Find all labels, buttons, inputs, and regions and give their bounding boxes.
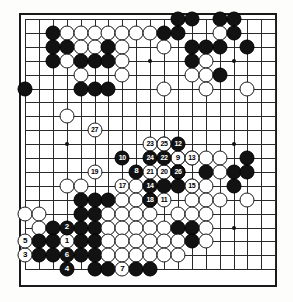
white-stone xyxy=(115,192,130,207)
move-number: 24 xyxy=(147,154,154,161)
black-stone xyxy=(45,25,60,40)
white-stone xyxy=(198,81,213,96)
black-stone xyxy=(73,234,88,249)
white-stone xyxy=(240,81,255,96)
move-number: 20 xyxy=(161,168,168,175)
white-stone xyxy=(115,220,130,235)
white-stone xyxy=(59,53,74,68)
black-stone xyxy=(184,220,199,235)
move-stone-7: 7 xyxy=(115,262,130,277)
move-stone-17: 17 xyxy=(115,178,130,193)
white-stone xyxy=(143,25,158,40)
white-stone xyxy=(31,220,46,235)
move-stone-15: 15 xyxy=(184,178,199,193)
move-stone-2: 2 xyxy=(59,220,74,235)
white-stone xyxy=(101,248,116,263)
grid-line-horizontal xyxy=(25,75,275,76)
white-stone xyxy=(157,220,172,235)
white-stone xyxy=(115,234,130,249)
white-stone xyxy=(184,206,199,221)
white-stone xyxy=(87,39,102,54)
grid-line-horizontal xyxy=(25,89,275,90)
black-stone xyxy=(240,164,255,179)
white-stone xyxy=(212,164,227,179)
move-stone-10: 10 xyxy=(115,151,130,166)
move-number: 14 xyxy=(147,182,154,189)
black-stone xyxy=(87,248,102,263)
white-stone xyxy=(73,178,88,193)
white-stone xyxy=(31,206,46,221)
black-stone xyxy=(73,220,88,235)
black-stone xyxy=(87,192,102,207)
grid-line-horizontal xyxy=(25,130,275,131)
white-stone xyxy=(170,234,185,249)
black-stone xyxy=(226,25,241,40)
move-stone-18: 18 xyxy=(143,192,158,207)
white-stone xyxy=(129,192,144,207)
black-stone xyxy=(101,81,116,96)
move-number: 15 xyxy=(188,182,195,189)
move-number: 22 xyxy=(161,154,168,161)
white-stone xyxy=(115,53,130,68)
white-stone xyxy=(73,67,88,82)
white-stone xyxy=(143,248,158,263)
white-stone xyxy=(115,67,130,82)
white-stone xyxy=(129,178,144,193)
white-stone xyxy=(101,234,116,249)
white-stone xyxy=(129,25,144,40)
grid-line-vertical xyxy=(275,19,276,269)
white-stone xyxy=(115,39,130,54)
black-stone xyxy=(73,53,88,68)
black-stone xyxy=(73,206,88,221)
white-stone xyxy=(240,192,255,207)
black-stone xyxy=(45,234,60,249)
white-stone xyxy=(143,220,158,235)
white-stone xyxy=(212,192,227,207)
white-stone xyxy=(198,192,213,207)
white-stone xyxy=(73,25,88,40)
move-stone-13: 13 xyxy=(184,151,199,166)
black-stone xyxy=(240,151,255,166)
hoshi-point xyxy=(65,142,69,146)
white-stone xyxy=(157,248,172,263)
black-stone xyxy=(226,164,241,179)
move-number: 5 xyxy=(23,237,27,245)
move-stone-14: 14 xyxy=(143,178,158,193)
white-stone xyxy=(115,25,130,40)
go-diagram: 1234567891011121314151617181920212223242… xyxy=(0,0,293,302)
white-stone xyxy=(198,151,213,166)
black-stone xyxy=(184,39,199,54)
white-stone xyxy=(73,39,88,54)
white-stone xyxy=(101,206,116,221)
white-stone xyxy=(143,234,158,249)
black-stone xyxy=(45,53,60,68)
go-board[interactable]: 1234567891011121314151617181920212223242… xyxy=(19,13,277,287)
move-stone-26: 26 xyxy=(170,164,185,179)
white-stone xyxy=(184,67,199,82)
hoshi-point xyxy=(232,59,236,63)
black-stone xyxy=(198,164,213,179)
move-number: 3 xyxy=(23,251,27,259)
move-number: 2 xyxy=(65,223,69,231)
black-stone xyxy=(73,81,88,96)
white-stone xyxy=(129,206,144,221)
black-stone xyxy=(87,206,102,221)
white-stone xyxy=(101,25,116,40)
black-stone xyxy=(73,248,88,263)
black-stone xyxy=(170,25,185,40)
hoshi-point xyxy=(148,59,152,63)
black-stone xyxy=(184,53,199,68)
white-stone xyxy=(184,192,199,207)
black-stone xyxy=(101,262,116,277)
black-stone xyxy=(45,248,60,263)
white-stone xyxy=(157,234,172,249)
black-stone xyxy=(226,12,241,27)
black-stone xyxy=(87,262,102,277)
move-number: 7 xyxy=(120,265,124,273)
black-stone xyxy=(212,12,227,27)
white-stone xyxy=(87,25,102,40)
white-stone xyxy=(198,206,213,221)
white-stone xyxy=(212,151,227,166)
move-stone-23: 23 xyxy=(143,137,158,152)
move-number: 10 xyxy=(119,154,126,161)
